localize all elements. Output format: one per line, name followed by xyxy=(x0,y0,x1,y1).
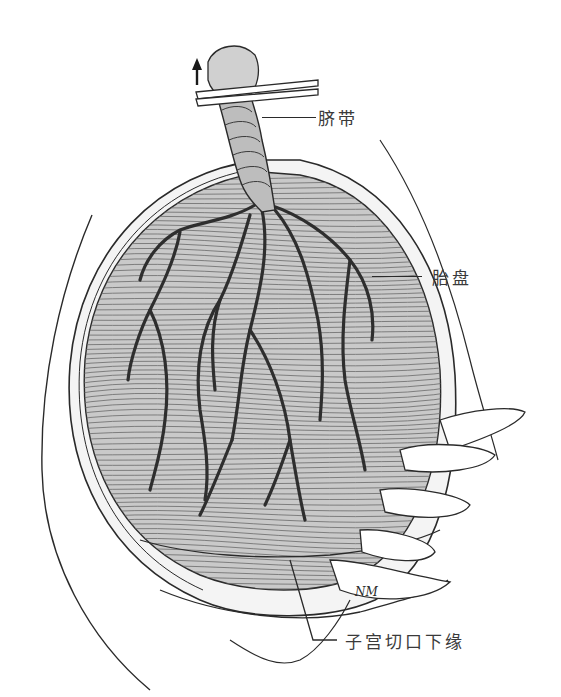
leader-lower-edge xyxy=(0,0,561,697)
label-lower-incision-edge: 子宫切口下缘 xyxy=(345,628,465,653)
